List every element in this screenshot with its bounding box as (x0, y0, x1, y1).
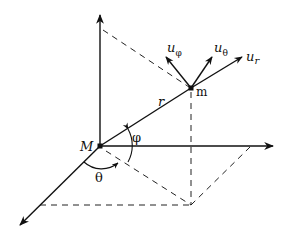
origin-label: M (79, 139, 94, 154)
radius-line (100, 88, 191, 146)
unit-r-label: ur (246, 49, 260, 66)
theta-arc (84, 162, 118, 169)
dashed-floor-to-x (191, 147, 250, 205)
theta-angle-label: θ (95, 170, 103, 185)
axes (20, 15, 273, 225)
vectors (100, 57, 242, 146)
y-axis (20, 146, 100, 225)
point-label: m (196, 85, 208, 99)
unit-vector-theta (191, 57, 212, 88)
unit-theta-label: uθ (214, 40, 228, 58)
dashed-origin-projection (106, 151, 191, 205)
unit-phi-label: uφ (167, 40, 182, 58)
unit-vector-phi (166, 57, 191, 88)
phi-angle-label: φ (132, 130, 141, 145)
unit-vector-r (191, 57, 242, 88)
origin-point (98, 144, 103, 149)
spherical-coordinate-diagram: M m r φ θ ur uθ uφ (0, 0, 288, 236)
radius-label: r (158, 94, 165, 109)
point-m (189, 86, 194, 91)
dashed-z-to-m (103, 30, 189, 87)
